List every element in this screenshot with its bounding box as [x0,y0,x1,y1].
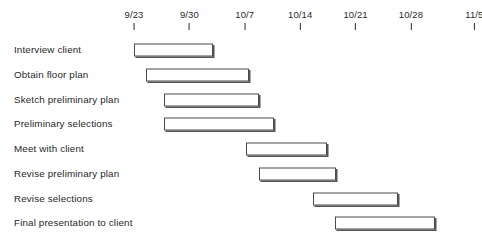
task-bar[interactable] [164,93,259,106]
axis-tick-9-30: 9/30 [180,0,199,30]
task-bar[interactable] [164,118,274,131]
task-row[interactable]: Obtain floor plan [0,63,482,88]
axis-tick-10-21: 10/21 [343,0,367,30]
task-row[interactable]: Revise selections [0,186,482,211]
task-label: Revise selections [14,193,93,205]
task-bar[interactable] [146,69,249,82]
task-label: Meet with client [14,143,84,155]
axis-tick-label: 10/14 [288,0,312,20]
task-bar[interactable] [335,217,435,230]
axis-tick-mark [133,23,134,30]
task-bar[interactable] [313,192,398,205]
task-row[interactable]: Interview client [0,38,482,63]
axis-tick-label: 9/30 [180,0,199,20]
axis-tick-label: 10/7 [235,0,254,20]
task-row[interactable]: Meet with client [0,137,482,162]
axis-tick-11-5: 11/5 [465,0,482,30]
task-row[interactable]: Revise preliminary plan [0,162,482,187]
task-row[interactable]: Final presentation to client [0,211,482,236]
task-label: Interview client [14,44,81,56]
task-rows: Interview clientObtain floor planSketch … [0,38,482,240]
axis-tick-10-14: 10/14 [288,0,312,30]
task-bar[interactable] [134,44,213,57]
axis-tick-10-7: 10/7 [235,0,254,30]
axis-tick-mark [300,23,301,30]
axis-tick-label: 11/5 [465,0,482,20]
axis-tick-10-28: 10/28 [399,0,423,30]
axis-tick-label: 10/28 [399,0,423,20]
axis-tick-mark [189,23,190,30]
axis-tick-mark [244,23,245,30]
task-row[interactable]: Preliminary selections [0,112,482,137]
task-label: Preliminary selections [14,118,113,130]
task-row[interactable]: Sketch preliminary plan [0,87,482,112]
task-label: Obtain floor plan [14,69,88,81]
task-bar[interactable] [259,167,336,180]
gantt-chart: 9/239/3010/710/1410/2110/2811/5 Intervie… [0,0,482,240]
axis-tick-mark [355,23,356,30]
axis-tick-label: 9/23 [125,0,144,20]
axis-tick-label: 10/21 [343,0,367,20]
task-label: Final presentation to client [14,217,133,229]
task-label: Sketch preliminary plan [14,94,119,106]
task-label: Revise preliminary plan [14,168,119,180]
task-bar[interactable] [246,143,327,156]
axis-tick-mark [410,23,411,30]
date-axis: 9/239/3010/710/1410/2110/2811/5 [0,0,482,38]
axis-tick-mark [474,23,475,30]
axis-tick-9-23: 9/23 [125,0,144,30]
